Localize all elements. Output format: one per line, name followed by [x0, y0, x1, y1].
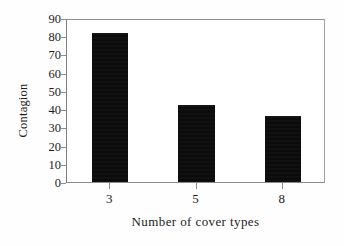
bar-series: [67, 20, 324, 182]
x-axis-tick-label: 3: [106, 192, 113, 205]
y-axis-tick-label: 10: [33, 159, 61, 172]
y-axis-tick-label: 40: [33, 104, 61, 117]
x-axis-tick-label: 5: [192, 192, 199, 205]
x-axis-tick-mark: [196, 183, 197, 189]
y-axis-title: Contagion: [14, 55, 34, 165]
x-axis-title: Number of cover types: [66, 214, 325, 230]
x-axis-tick-mark: [282, 183, 283, 189]
y-axis-tick-label: 50: [33, 86, 61, 99]
x-axis-tick-mark: [109, 183, 110, 189]
y-axis-tick-label: 60: [33, 67, 61, 80]
chart-figure: Contagion 0102030405060708090 358 Number…: [0, 0, 344, 246]
x-axis-tick-labels: 358: [66, 192, 325, 212]
y-axis-tick-label: 20: [33, 140, 61, 153]
y-axis-tick-label: 70: [33, 49, 61, 62]
x-axis-tick-label: 8: [279, 192, 286, 205]
bar: [265, 116, 301, 182]
y-axis-tick-labels: 0102030405060708090: [33, 19, 61, 183]
y-axis-tick-label: 0: [33, 177, 61, 190]
y-axis-tick-label: 90: [33, 13, 61, 26]
bar: [92, 33, 128, 182]
y-axis-title-text: Contagion: [17, 83, 32, 137]
y-axis-tick-label: 80: [33, 31, 61, 44]
y-axis-tick-label: 30: [33, 122, 61, 135]
bar: [178, 105, 214, 182]
x-axis-tick-marks: [66, 183, 325, 189]
plot-area: [66, 19, 325, 183]
